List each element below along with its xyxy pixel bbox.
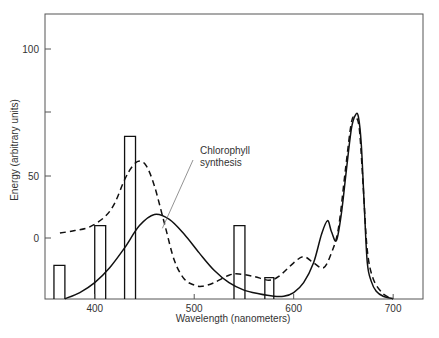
- y-axis-title: Energy (arbitrary units): [9, 99, 20, 201]
- spectrum-chart: 400500600700 050100 Wavelength (nanomete…: [0, 0, 439, 338]
- bar: [125, 136, 136, 299]
- annotation-text: Chlorophyll: [200, 145, 250, 156]
- x-axis-title: Wavelength (nanometers): [176, 313, 291, 324]
- y-tick-label: 50: [28, 171, 40, 182]
- dashed-curve: [60, 117, 393, 299]
- y-tick-label: 100: [22, 44, 39, 55]
- solid-curve: [65, 113, 393, 299]
- annotations: Chlorophyllsynthesis: [162, 145, 250, 228]
- bar: [95, 226, 106, 299]
- x-axis-ticks: 400500600700: [86, 294, 402, 314]
- y-tick-label: 0: [33, 233, 39, 244]
- line-series: [60, 113, 393, 299]
- x-tick-label: 400: [86, 303, 103, 314]
- annotation-leader-line: [162, 160, 193, 228]
- bar: [54, 265, 65, 299]
- annotation-text: synthesis: [200, 157, 242, 168]
- x-tick-label: 700: [385, 303, 402, 314]
- y-axis-ticks: 050100: [22, 44, 51, 244]
